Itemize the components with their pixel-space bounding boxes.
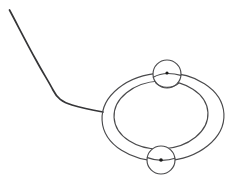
drawing-canvas: A simple black-and-white line drawing sh…: [0, 0, 234, 182]
bottom-bead-center-dot: [159, 158, 163, 162]
line-drawing-svg: [0, 0, 234, 182]
top-bead-center-dot: [165, 71, 168, 74]
top-bead-group: [153, 60, 181, 88]
canvas-background: [0, 0, 234, 182]
bottom-bead-group: [147, 146, 175, 174]
